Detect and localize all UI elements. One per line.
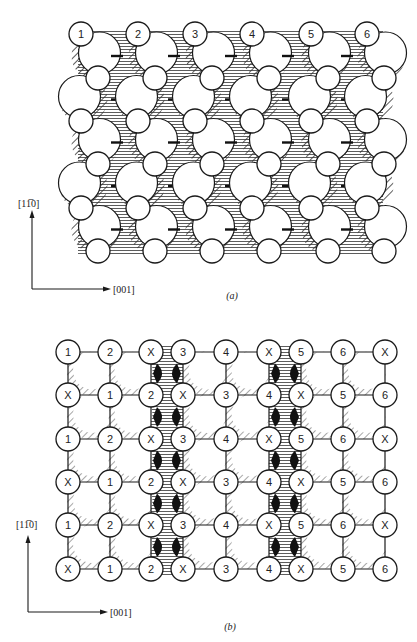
axis-vertical-label: [11̅0] (18, 198, 39, 209)
atom (316, 66, 340, 90)
atom (200, 239, 224, 263)
atom (183, 109, 207, 133)
atom-label: 1 (65, 519, 71, 531)
atom-label: X (265, 346, 273, 358)
atom-label: 4 (266, 389, 272, 401)
atom-label: 2 (135, 28, 141, 40)
atom-label: X (179, 389, 187, 401)
atom-label: X (179, 563, 187, 575)
atom (69, 196, 93, 220)
axis-horizontal-label: [001] (110, 607, 132, 618)
atom-label: 3 (180, 519, 186, 531)
atom-label: 1 (107, 389, 113, 401)
atom (355, 109, 379, 133)
atom (86, 239, 110, 263)
atom-label: X (64, 563, 72, 575)
atom (126, 109, 150, 133)
atom-label: 6 (364, 28, 370, 40)
atom-label: 5 (340, 563, 346, 575)
atom-label: X (147, 433, 155, 445)
arrow-right-icon (100, 610, 108, 615)
atom-label: 3 (223, 476, 229, 488)
atom-label: 5 (308, 28, 314, 40)
atom-label: 5 (298, 346, 304, 358)
atom-label: 6 (382, 563, 388, 575)
atom-label: 6 (340, 433, 346, 445)
atom-label: 2 (148, 563, 154, 575)
atom-label: 3 (180, 433, 186, 445)
atom-label: 1 (65, 346, 71, 358)
atom-label: 4 (223, 519, 229, 531)
atom-label: 3 (180, 346, 186, 358)
atom-label: 5 (340, 389, 346, 401)
atom-label: X (297, 476, 305, 488)
arrow-right-icon (103, 287, 111, 292)
atom-label: 5 (340, 476, 346, 488)
atom-label: 6 (340, 346, 346, 358)
atom (126, 196, 150, 220)
atom (257, 152, 281, 176)
atom (299, 109, 323, 133)
atom-label: 1 (107, 563, 113, 575)
atom-label: 1 (65, 433, 71, 445)
atom (372, 239, 396, 263)
arrow-up-icon (30, 210, 35, 218)
atom-label: X (147, 346, 155, 358)
atom-label: 4 (266, 476, 272, 488)
atom-label: X (147, 519, 155, 531)
atom-label: 2 (107, 519, 113, 531)
atom (240, 196, 264, 220)
atom-label: 4 (266, 563, 272, 575)
crystal-surface-figure: 123456 [11̅0] [001] (a) 12X34X56XX12X34X… (0, 0, 417, 642)
atom-label: X (265, 433, 273, 445)
atom (299, 196, 323, 220)
atom-label: 3 (223, 563, 229, 575)
atom (86, 66, 110, 90)
atom-label: 2 (107, 346, 113, 358)
atom-label: 4 (249, 28, 255, 40)
atom-label: X (265, 519, 273, 531)
panel-b: 12X34X56XX12X34X5612X34X56XX12X34X5612X3… (16, 340, 397, 633)
atom (200, 152, 224, 176)
atom-label: 2 (148, 389, 154, 401)
atom (183, 196, 207, 220)
atom-label: X (64, 476, 72, 488)
atom-label: 6 (382, 476, 388, 488)
atom (257, 66, 281, 90)
atom (372, 66, 396, 90)
panel-b-caption: (b) (224, 621, 236, 633)
atom-label: 2 (148, 476, 154, 488)
atom-label: 1 (107, 476, 113, 488)
atom (143, 66, 167, 90)
atom (143, 239, 167, 263)
axis-vertical-label: [11̅0] (16, 519, 37, 530)
atom-label: X (381, 346, 389, 358)
atom-label: X (381, 519, 389, 531)
arrow-up-icon (26, 535, 31, 543)
atom-label: X (179, 476, 187, 488)
atom-label: 5 (298, 519, 304, 531)
atom-label: 4 (223, 346, 229, 358)
panel-a: 123456 [11̅0] [001] (a) (18, 22, 407, 302)
atom-label: X (381, 433, 389, 445)
atom-label: 5 (298, 433, 304, 445)
atom (355, 196, 379, 220)
atom-label: 4 (223, 433, 229, 445)
atom (143, 152, 167, 176)
atom (257, 239, 281, 263)
atom (316, 152, 340, 176)
atom-label: X (64, 389, 72, 401)
atom-label: 3 (192, 28, 198, 40)
atom (69, 109, 93, 133)
atom-label: 3 (223, 389, 229, 401)
atom (372, 152, 396, 176)
panel-a-caption: (a) (226, 290, 238, 302)
atom-label: 6 (382, 389, 388, 401)
atom (200, 66, 224, 90)
atom-label: 2 (107, 433, 113, 445)
atom (240, 109, 264, 133)
atom (316, 239, 340, 263)
atom-label: X (297, 389, 305, 401)
atom-label: X (297, 563, 305, 575)
atom-label: 6 (340, 519, 346, 531)
